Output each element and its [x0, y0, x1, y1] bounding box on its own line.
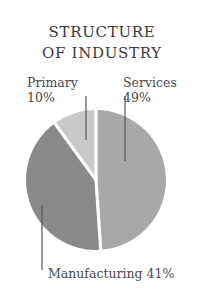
slice-label-primary: Primary 10%: [27, 75, 78, 105]
slice-label-manufacturing-text: Manufacturing 41%: [48, 266, 174, 281]
pie-chart-figure: STRUCTURE OF INDUSTRY Primary 10% Servic…: [0, 0, 204, 290]
slice-label-primary-percent: 10%: [27, 90, 78, 105]
slice-label-services-percent: 49%: [123, 90, 177, 105]
slice-label-services-name: Services: [123, 75, 177, 90]
slice-label-manufacturing: Manufacturing 41%: [48, 266, 174, 281]
pie-graphic: [0, 0, 204, 290]
slice-label-services: Services 49%: [123, 75, 177, 105]
slice-label-primary-name: Primary: [27, 75, 78, 90]
pie-slice-services: [96, 110, 166, 250]
